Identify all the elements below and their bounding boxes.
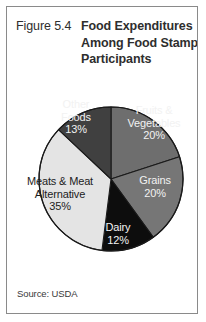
title-line-1: Food Expenditures <box>81 18 197 35</box>
pie-slices <box>39 107 183 251</box>
page-title: Food Expenditures Among Food Stamp Parti… <box>81 18 197 68</box>
figure-number-label: Figure 5.4 <box>16 19 71 33</box>
title-line-3: Participants <box>81 51 197 68</box>
pie-chart-svg <box>7 82 198 272</box>
figure-title-block: Figure 5.4 Food Expenditures Among Food … <box>7 16 198 82</box>
source-note: Source: USDA <box>17 288 78 299</box>
figure-card: Figure 5.4 Food Expenditures Among Food … <box>6 6 198 314</box>
pie-chart: Fruits & Vegetables 20% Grains 20% Dairy… <box>7 82 198 272</box>
title-line-2: Among Food Stamp <box>81 35 197 52</box>
